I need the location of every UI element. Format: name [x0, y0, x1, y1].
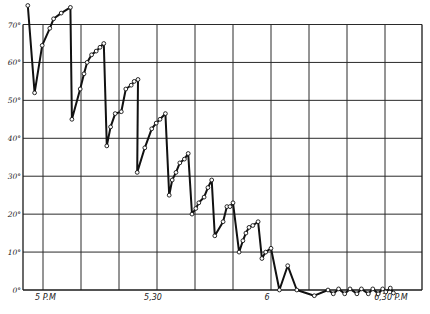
data-point-marker: [366, 292, 370, 296]
data-point-marker: [143, 146, 147, 150]
data-point-marker: [381, 287, 385, 291]
data-point-marker: [78, 87, 82, 91]
data-point-marker: [197, 201, 201, 205]
data-point-marker: [331, 292, 335, 296]
data-point-marker: [295, 288, 299, 292]
data-point-marker: [90, 53, 94, 57]
data-point-marker: [213, 234, 217, 238]
data-point-marker: [119, 110, 123, 114]
data-point-marker: [102, 42, 106, 46]
data-point-marker: [113, 112, 117, 116]
data-point-marker: [164, 112, 168, 116]
data-point-marker: [388, 286, 392, 290]
data-point-marker: [69, 6, 73, 10]
data-point-marker: [124, 87, 128, 91]
data-point-marker: [186, 152, 190, 156]
data-point-marker: [360, 287, 364, 291]
data-point-marker: [135, 171, 139, 175]
data-point-marker: [26, 4, 30, 8]
data-point-marker: [278, 288, 282, 292]
data-point-marker: [33, 91, 37, 95]
data-point-marker: [247, 226, 251, 230]
x-tick-label: 6: [264, 293, 269, 302]
data-point-marker: [82, 72, 86, 76]
y-tick-label: 10°: [8, 248, 22, 257]
data-point-marker: [392, 291, 396, 295]
data-point-marker: [371, 287, 375, 291]
data-point-marker: [132, 80, 136, 84]
data-point-marker: [105, 144, 109, 148]
grid: [23, 25, 422, 291]
data-point-marker: [210, 178, 214, 182]
data-point-marker: [178, 161, 182, 165]
data-point-marker: [154, 121, 158, 125]
data-point-marker: [348, 287, 352, 291]
data-point-marker: [237, 250, 241, 254]
data-point-marker: [343, 292, 347, 296]
data-point-marker: [384, 290, 388, 294]
data-point-marker: [170, 178, 174, 182]
data-point-marker: [202, 195, 206, 199]
data-point-marker: [129, 83, 133, 87]
data-point-marker: [158, 117, 162, 121]
y-tick-label: 40°: [7, 134, 22, 143]
y-tick-label: 60°: [8, 58, 22, 67]
y-tick-label: 70°: [8, 21, 22, 30]
data-point-marker: [260, 257, 264, 261]
data-point-marker: [48, 26, 52, 30]
data-point-marker: [52, 17, 56, 21]
temperature-chart: 0°10°20°30°40°50°60°70° 5 P.M5,3066,30 P…: [0, 0, 430, 314]
data-point-marker: [194, 207, 198, 211]
data-point-marker: [326, 288, 330, 292]
data-point-marker: [251, 224, 255, 228]
y-tick-label: 30°: [8, 172, 22, 181]
y-tick-label: 50°: [8, 96, 22, 105]
x-axis-tick-labels: 5 P.M5,3066,30 P.M: [35, 293, 408, 302]
data-point-marker: [150, 127, 154, 131]
data-point-marker: [221, 220, 225, 224]
data-point-marker: [376, 292, 380, 296]
y-tick-label: 0°: [12, 286, 21, 295]
data-point-marker: [183, 157, 187, 161]
data-point-marker: [337, 287, 341, 291]
data-point-marker: [256, 220, 260, 224]
data-point-marker: [286, 264, 290, 268]
data-point-marker: [167, 193, 171, 197]
data-point-marker: [85, 61, 89, 65]
data-point-marker: [264, 250, 268, 254]
data-point-marker: [269, 246, 273, 250]
data-point-marker: [355, 292, 359, 296]
x-tick-label: 5,30: [144, 293, 162, 302]
data-point-marker: [70, 117, 74, 121]
data-point-marker: [174, 171, 178, 175]
data-point-marker: [40, 44, 44, 48]
data-point-marker: [98, 45, 102, 49]
data-point-marker: [312, 294, 316, 298]
data-point-marker: [59, 11, 63, 15]
data-point-marker: [190, 212, 194, 216]
data-point-marker: [109, 125, 113, 129]
data-point-marker: [228, 205, 232, 209]
data-point-marker: [244, 231, 248, 235]
data-point-marker: [231, 201, 235, 205]
x-tick-label: 5 P.M: [35, 293, 56, 302]
data-point-marker: [241, 239, 245, 243]
data-point-marker: [206, 186, 210, 190]
data-point-marker: [136, 78, 140, 82]
y-tick-label: 20°: [7, 210, 22, 219]
data-point-marker: [94, 49, 98, 53]
y-axis-tick-labels: 0°10°20°30°40°50°60°70°: [7, 21, 22, 296]
